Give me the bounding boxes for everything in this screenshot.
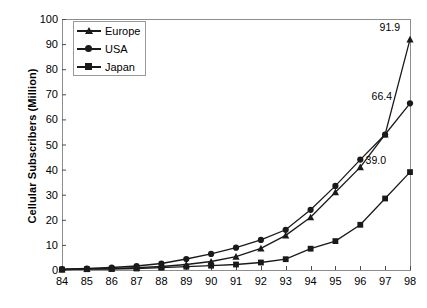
data-point-japan xyxy=(59,267,65,273)
data-point-japan xyxy=(134,266,140,272)
legend-label-europe: Europe xyxy=(101,26,140,37)
series-line-usa xyxy=(62,103,410,269)
data-point-usa xyxy=(283,227,289,233)
data-point-japan xyxy=(233,262,239,268)
data-point-usa xyxy=(382,131,388,137)
data-point-japan xyxy=(258,260,264,266)
data-point-europe xyxy=(257,245,264,252)
legend-item-europe: Europe xyxy=(74,22,145,40)
plot-area xyxy=(0,0,427,308)
japan-marker-icon xyxy=(77,61,101,73)
data-point-japan xyxy=(159,265,165,271)
data-label-usa: 66.4 xyxy=(356,91,392,102)
usa-marker-icon xyxy=(77,43,101,55)
data-point-japan xyxy=(84,266,90,272)
data-point-japan xyxy=(308,246,314,252)
data-point-usa xyxy=(308,207,314,213)
data-label-europe: 91.9 xyxy=(364,22,400,33)
data-label-japan: 39.0 xyxy=(350,155,386,166)
data-point-europe xyxy=(406,36,413,43)
data-point-usa xyxy=(233,245,239,251)
legend-label-usa: USA xyxy=(101,44,128,55)
data-point-japan xyxy=(183,264,189,270)
data-point-japan xyxy=(357,222,363,228)
data-point-japan xyxy=(382,196,388,202)
data-point-usa xyxy=(407,100,413,106)
data-point-usa xyxy=(208,251,214,257)
data-point-japan xyxy=(109,266,115,272)
data-point-usa xyxy=(258,237,264,243)
data-point-usa xyxy=(183,256,189,262)
data-point-japan xyxy=(333,238,339,244)
legend-label-japan: Japan xyxy=(101,62,135,73)
data-point-japan xyxy=(283,256,289,262)
chart-legend: Europe USA Japan xyxy=(73,21,146,76)
europe-marker-icon xyxy=(77,25,101,37)
legend-item-japan: Japan xyxy=(74,58,145,76)
legend-item-usa: USA xyxy=(74,40,145,58)
cellular-subscribers-line-chart: Cellular Subscribers (Million) 010203040… xyxy=(0,0,427,308)
data-point-japan xyxy=(407,169,413,175)
data-point-japan xyxy=(208,263,214,269)
data-point-usa xyxy=(332,183,338,189)
